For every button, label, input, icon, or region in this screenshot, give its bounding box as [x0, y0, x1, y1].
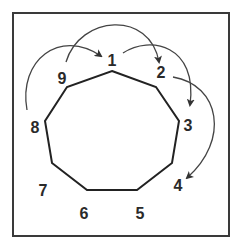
vertex-label-6: 6: [80, 205, 89, 222]
vertex-label-9: 9: [58, 70, 67, 87]
arrow-2-to-4: [173, 77, 214, 178]
vertex-label-1: 1: [108, 52, 117, 69]
vertex-label-7: 7: [39, 182, 48, 199]
vertex-label-8: 8: [31, 119, 40, 136]
vertex-label-3: 3: [184, 117, 193, 134]
nonagon-diagram: 123456789: [0, 0, 240, 249]
vertex-label-2: 2: [157, 64, 166, 81]
vertex-label-5: 5: [136, 205, 145, 222]
nonagon-shape: [45, 71, 179, 190]
vertex-label-4: 4: [174, 177, 183, 194]
vertex-label-group: 123456789: [31, 52, 193, 222]
arrow-group: [26, 25, 215, 178]
